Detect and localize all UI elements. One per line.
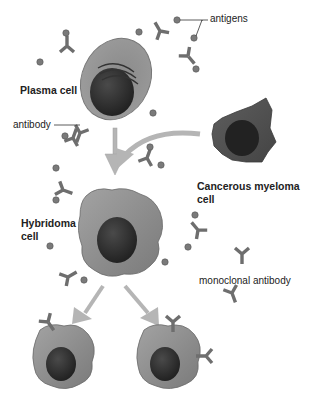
diagram-canvas (0, 0, 312, 406)
label-monoclonal-antibody: monoclonal antibody (199, 275, 291, 287)
label-hybridoma-line1: Hybridoma (21, 217, 76, 229)
hybridoma-diagram: antigens Plasma cell antibody Cancerous … (0, 0, 312, 406)
label-myeloma-line2: cell (197, 193, 215, 205)
clone-cell-left (33, 313, 94, 389)
label-antigens: antigens (210, 13, 248, 25)
label-plasma-cell: Plasma cell (20, 84, 77, 96)
arrow-myeloma-to-hybridoma (116, 133, 200, 168)
arrow-hybridoma-to-clone-left (72, 286, 103, 324)
hybridoma-cell (78, 189, 162, 277)
myeloma-cell (212, 98, 276, 162)
clone-cell-right (137, 316, 212, 389)
label-hybridoma-line2: cell (21, 230, 39, 242)
arrow-hybridoma-to-clone-right (125, 286, 159, 326)
label-myeloma-line1: Cancerous myeloma (197, 180, 300, 192)
label-antibody: antibody (13, 119, 51, 131)
plasma-cell (67, 27, 164, 132)
